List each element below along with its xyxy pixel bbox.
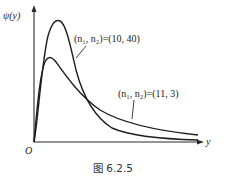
annotation-leader-10-40 [76,46,86,58]
chart: ψ(y) y O (n₁, n₂)=(10, 40) (n₁, n₂)=(11,… [0,0,226,183]
annotation-leader-11-3 [132,100,134,119]
figure-caption: 图 6.2.5 [0,160,226,175]
x-axis [34,140,204,145]
annotation-11-3: (n₁, n₂)=(11, 3) [118,88,179,100]
y-axis-label: ψ(y) [3,10,21,22]
y-axis-arrow-icon [32,5,37,12]
x-axis-label: y [205,136,211,147]
annotation-10-40: (n₁, n₂)=(10, 40) [74,33,140,45]
origin-label: O [25,145,32,156]
x-axis-arrow-icon [197,140,204,145]
